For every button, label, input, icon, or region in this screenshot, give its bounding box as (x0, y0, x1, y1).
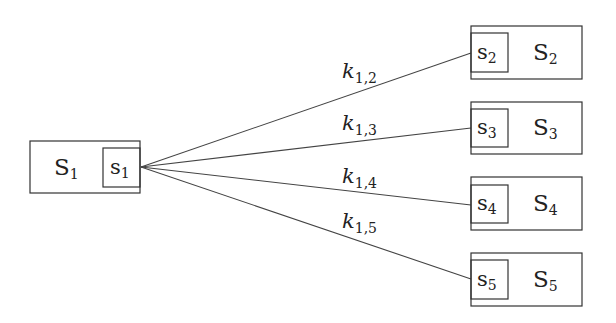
node-s1-outer-label: S1 (54, 154, 79, 182)
node-s2: s2 S2 (471, 26, 582, 79)
edge-label-1-2: k1,2 (342, 59, 377, 86)
node-s2-inner-label: s2 (477, 40, 497, 66)
node-s1-inner-label: s1 (110, 155, 130, 181)
node-s5-inner-label: s5 (477, 267, 497, 293)
node-s4-outer-label: S4 (533, 190, 558, 218)
edge-1-3 (141, 128, 471, 167)
node-s3-outer-label: S3 (533, 114, 558, 142)
edges (141, 53, 471, 279)
edge-1-5 (141, 167, 471, 279)
node-s4-inner-label: s4 (477, 191, 497, 217)
edge-1-4 (141, 167, 471, 205)
node-s5: s5 S5 (471, 253, 582, 306)
node-s5-outer-label: S5 (533, 266, 558, 294)
node-s3-inner-label: s3 (477, 115, 497, 141)
node-s2-outer-label: S2 (533, 39, 558, 67)
node-s1: S1 s1 (30, 141, 140, 193)
node-s4: s4 S4 (471, 177, 582, 230)
edge-label-1-3: k1,3 (342, 111, 377, 138)
diagram-canvas: k1,2 k1,3 k1,4 k1,5 S1 s1 s2 S2 s3 S3 s4… (0, 0, 616, 323)
node-s3: s3 S3 (471, 102, 582, 154)
edge-label-1-4: k1,4 (342, 164, 377, 191)
edge-label-1-5: k1,5 (342, 209, 377, 236)
edge-1-2 (141, 53, 471, 167)
